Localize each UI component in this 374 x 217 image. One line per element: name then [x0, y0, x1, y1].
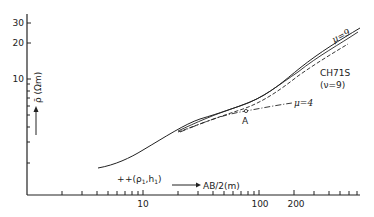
curve-param-label: (ν=9) [320, 80, 345, 90]
svg-text:+: + [117, 174, 125, 184]
x-tick-100: 100 [251, 199, 268, 209]
mu9-label: μ=9 [330, 27, 352, 45]
point-a-label: A [242, 116, 249, 126]
svg-text:+(ρ1,h1): +(ρ1,h1) [125, 174, 162, 185]
mu4-label: μ=4 [294, 98, 313, 108]
x-tick-200: 200 [287, 199, 304, 209]
y-tick-10: 10 [13, 74, 25, 84]
x-axis-arrow-icon [172, 183, 201, 188]
y-axis-label: ρ̄ (Ωm) [33, 72, 43, 103]
rho1-h1-marker: + +(ρ1,h1) [117, 174, 162, 185]
x-tick-10: 10 [137, 199, 149, 209]
curve-ch71s-solid [98, 28, 360, 168]
y-axis-arrow-icon [34, 106, 39, 135]
curve-name-label: CH71S [320, 68, 351, 78]
sounding-curve-chart: 30 20 10 10 100 200 AB/2(m) ρ̄ ( [0, 0, 374, 217]
y-tick-20: 20 [13, 38, 25, 48]
y-tick-30: 30 [13, 18, 25, 28]
point-a-marker [244, 109, 247, 112]
x-axis-label: AB/2(m) [203, 181, 240, 191]
